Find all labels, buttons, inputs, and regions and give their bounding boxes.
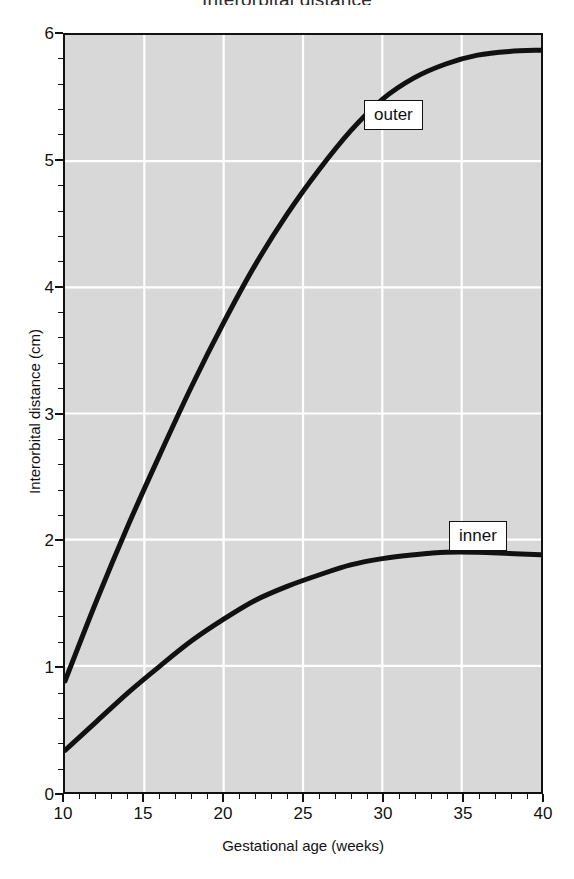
x-axis-tick-label: 10 [41, 805, 85, 822]
x-axis-tick-major [62, 794, 64, 802]
series-label-inner: inner [449, 521, 507, 551]
x-axis-tick-minor [495, 794, 496, 799]
x-axis-tick-minor [207, 794, 208, 799]
y-axis-tick-minor [58, 261, 63, 262]
x-axis-tick-minor [111, 794, 112, 799]
x-axis-tick-minor [127, 794, 128, 799]
y-axis-tick-minor [58, 515, 63, 516]
y-axis-tick-minor [58, 134, 63, 135]
y-axis-tick-minor [58, 363, 63, 364]
x-axis-tick-minor [271, 794, 272, 799]
y-axis-tick-major [55, 286, 63, 288]
y-axis-tick-minor [58, 566, 63, 567]
y-axis-tick-major [55, 159, 63, 161]
x-axis-tick-minor [239, 794, 240, 799]
y-axis-tick-major [55, 666, 63, 668]
y-axis-tick-minor [58, 718, 63, 719]
y-axis-tick-minor [58, 211, 63, 212]
plot-svg [65, 35, 541, 792]
y-axis-tick-label: 6 [20, 25, 54, 42]
y-axis-tick-minor [58, 616, 63, 617]
x-axis-tick-minor [79, 794, 80, 799]
x-axis-tick-minor [159, 794, 160, 799]
y-axis-tick-minor [58, 591, 63, 592]
x-axis-tick-minor [191, 794, 192, 799]
x-axis-tick-minor [335, 794, 336, 799]
x-axis-tick-minor [175, 794, 176, 799]
y-axis-tick-minor [58, 388, 63, 389]
y-axis-tick-minor [58, 109, 63, 110]
x-axis-tick-minor [351, 794, 352, 799]
x-axis-tick-minor [255, 794, 256, 799]
x-axis-tick-major [462, 794, 464, 802]
y-axis-tick-minor [58, 439, 63, 440]
x-axis-tick-minor [399, 794, 400, 799]
y-axis-title: Interorbital distance (cm) [27, 212, 42, 612]
x-axis-tick-minor [287, 794, 288, 799]
y-axis-tick-major [55, 413, 63, 415]
y-axis-tick-label: 1 [20, 659, 54, 676]
x-axis-tick-minor [367, 794, 368, 799]
x-axis-tick-minor [431, 794, 432, 799]
chart-figure: Interorbital distance 012345610152025303… [0, 0, 574, 879]
x-axis-tick-major [142, 794, 144, 802]
y-axis-tick-minor [58, 490, 63, 491]
x-axis-tick-label: 30 [361, 805, 405, 822]
y-axis-tick-minor [58, 464, 63, 465]
chart-title: Interorbital distance [0, 0, 574, 5]
x-axis-tick-minor [511, 794, 512, 799]
x-axis-tick-minor [319, 794, 320, 799]
y-axis-tick-minor [58, 312, 63, 313]
y-axis-tick-minor [58, 84, 63, 85]
x-axis-tick-major [542, 794, 544, 802]
x-axis-tick-label: 40 [521, 805, 565, 822]
x-axis-title: Gestational age (weeks) [63, 838, 543, 853]
y-axis-tick-minor [58, 337, 63, 338]
x-axis-tick-major [382, 794, 384, 802]
x-axis-tick-minor [415, 794, 416, 799]
y-axis-tick-major [55, 539, 63, 541]
x-axis-tick-minor [527, 794, 528, 799]
y-axis-tick-minor [58, 769, 63, 770]
x-axis-tick-major [222, 794, 224, 802]
x-axis-tick-minor [447, 794, 448, 799]
x-axis-tick-label: 15 [121, 805, 165, 822]
x-axis-tick-label: 25 [281, 805, 325, 822]
y-axis-tick-major [55, 32, 63, 34]
x-axis-tick-minor [479, 794, 480, 799]
x-axis-tick-minor [95, 794, 96, 799]
y-axis-tick-minor [58, 236, 63, 237]
plot-area [63, 33, 543, 794]
y-axis-tick-minor [58, 185, 63, 186]
y-axis-tick-minor [58, 693, 63, 694]
y-axis-tick-minor [58, 642, 63, 643]
y-axis-tick-minor [58, 58, 63, 59]
y-axis-tick-minor [58, 743, 63, 744]
series-label-outer: outer [364, 100, 423, 130]
x-axis-tick-label: 20 [201, 805, 245, 822]
x-axis-tick-label: 35 [441, 805, 485, 822]
y-axis-tick-label: 5 [20, 152, 54, 169]
y-axis-tick-label: 0 [20, 786, 54, 803]
x-axis-tick-major [302, 794, 304, 802]
